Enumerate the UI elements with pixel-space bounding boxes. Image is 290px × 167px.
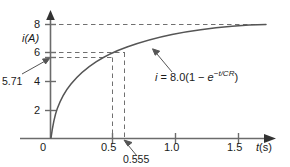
- y-axis-arrowhead: [46, 10, 55, 20]
- leader-5point71: [22, 59, 50, 74]
- leader-equation: [153, 49, 173, 72]
- x-tick-label-15: 1.5: [227, 142, 242, 153]
- annotation-value-0-555: 0.555: [123, 154, 149, 165]
- figure-exponential-current-graph: 8 6 4 2 i(A) 0 0.5 1.0 1.5 t(s) 5.71 0.5…: [0, 0, 290, 167]
- x-tick-label-05: 0.5: [101, 142, 116, 153]
- y-tick-label-4: 4: [34, 76, 40, 87]
- x-axis-title: t(s): [256, 142, 272, 153]
- y-axis-title: i(A): [22, 33, 39, 44]
- y-tick-label-6: 6: [34, 47, 40, 58]
- y-tick-label-8: 8: [34, 19, 40, 30]
- x-tick-label-10: 1.0: [164, 142, 179, 153]
- y-tick-label-2: 2: [34, 105, 40, 116]
- origin-label: 0: [40, 142, 46, 153]
- equation-callout: i = 8.0(1 − e−t/CR): [155, 72, 238, 83]
- annotation-value-5-71: 5.71: [2, 76, 22, 87]
